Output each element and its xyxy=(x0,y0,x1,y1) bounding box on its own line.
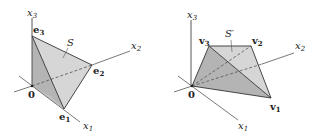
left-e3-label: e3 xyxy=(33,24,44,37)
right-origin-dot xyxy=(191,85,194,88)
right-x2-label: x2 xyxy=(295,40,306,53)
left-origin-dot xyxy=(31,85,34,88)
right-v1-label: v1 xyxy=(269,101,281,114)
right-x3-label: x3 xyxy=(187,9,198,22)
left-origin-label: 0 xyxy=(28,89,35,100)
left-x1-label: x1 xyxy=(83,120,93,133)
right-v3-label: v3 xyxy=(198,35,210,48)
left-region-label: S xyxy=(67,37,74,48)
left-e1-label: e1 xyxy=(59,111,70,124)
left-x2-axis xyxy=(92,51,130,65)
right-x2-axis xyxy=(262,53,294,64)
left-x2-label: x2 xyxy=(131,40,142,53)
right-figure: x3 v3 S′ v2 x2 0 v1 x1 xyxy=(174,9,306,133)
right-region-label: S′ xyxy=(225,28,235,39)
diagram-canvas: x3 e3 S x2 e2 0 e1 x1 x3 v3 S′ xyxy=(0,0,320,138)
left-e2-label: e2 xyxy=(93,65,104,78)
right-x1-label: x1 xyxy=(238,120,248,133)
right-v2-label: v2 xyxy=(251,35,263,48)
left-figure: x3 e3 S x2 e2 0 e1 x1 xyxy=(14,7,142,133)
right-origin-label: 0 xyxy=(188,89,195,100)
left-x3-label: x3 xyxy=(27,7,38,20)
